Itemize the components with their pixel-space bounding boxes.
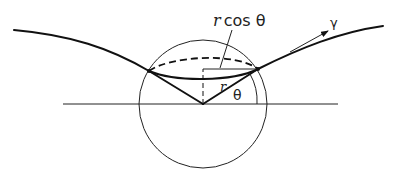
contact-point-left (147, 69, 151, 73)
rcos-label-r: r (213, 11, 222, 30)
radius-line-left (149, 71, 203, 104)
radius-label: r (220, 79, 227, 94)
theta-angle-arc (250, 74, 257, 104)
contact-point-right (256, 67, 260, 71)
interface-curve (14, 26, 383, 79)
theta-label: θ (233, 87, 242, 103)
rcos-pointer-line (220, 30, 232, 68)
rcos-label-cos: cos θ (224, 11, 266, 30)
rcos-label: rcos θ (213, 11, 265, 30)
sphere-interface-diagram: rcos θ γ θ r (0, 0, 394, 179)
diagram-canvas: rcos θ γ θ r (0, 0, 394, 179)
gamma-label: γ (330, 15, 338, 30)
